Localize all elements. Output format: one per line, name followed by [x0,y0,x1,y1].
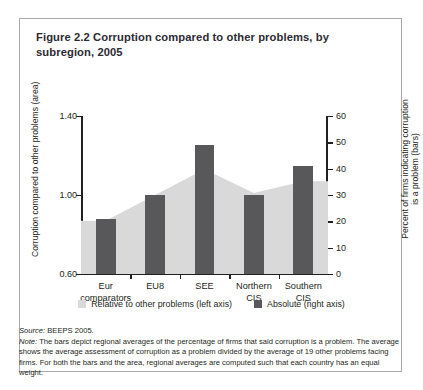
x-axis-tick [229,274,230,279]
chart-plot-area: Corruption compared to other problems (a… [20,81,403,296]
legend-item-area: Relative to other problems (left axis) [78,299,232,309]
x-axis-category-label: SEE [195,281,213,293]
source-text: BEEPS 2005. [45,326,94,335]
legend-label-area: Relative to other problems (left axis) [91,299,232,309]
chart-bar [244,195,264,274]
y-axis-right-title: Percent of firms indicating corruption i… [400,84,420,254]
x-axis-category-label: EU8 [146,281,164,293]
y-axis-left-tick-label: 1.00 [59,190,77,200]
legend-swatch-area-icon [78,300,86,308]
y-axis-right-tick [328,142,333,143]
y-axis-right-tick-label: 10 [336,243,346,253]
y-axis-right-title-line1: Percent of firms indicating corruption [400,99,410,238]
y-axis-right-tick [328,169,333,170]
chart-bar [145,195,165,274]
figure-title: Figure 2.2 Corruption compared to other … [36,30,386,60]
y-axis-right-tick-label: 20 [336,216,346,226]
source-line: Source: BEEPS 2005. [19,326,404,336]
y-axis-right-tick-label: 0 [336,269,341,279]
y-axis-left-tick-label: 1.40 [59,111,77,121]
y-axis-right-tick-label: 50 [336,137,346,147]
chart-bar [195,145,215,274]
x-axis-category-label-line1: Eur [99,281,113,291]
legend-label-bar: Absolute (right axis) [267,299,345,309]
note-line: Note: The bars depict regional averages … [19,337,404,378]
x-axis-category-label-line1: Northern [236,281,272,291]
y-axis-right-tick [328,248,333,249]
chart-axes: 0.601.001.400102030405060EurcomparatorsE… [81,116,328,274]
x-axis-category-label-line1: EU8 [146,281,164,291]
y-axis-right-tick-label: 40 [336,164,346,174]
chart-bar [293,166,313,274]
chart-legend: Relative to other problems (left axis) A… [20,299,403,309]
y-axis-right-tick [328,195,333,196]
x-axis-tick [180,274,181,279]
legend-swatch-bar-icon [254,300,262,308]
figure-card: Figure 2.2 Corruption compared to other … [19,18,402,372]
x-axis-tick [130,274,131,279]
legend-item-bar: Absolute (right axis) [254,299,345,309]
chart-bar [96,219,116,274]
y-axis-right-tick [328,274,333,275]
x-axis-category-label-line1: SEE [195,281,213,291]
y-axis-right-tick [328,116,333,117]
source-label: Source: [19,326,45,335]
y-axis-right-tick-label: 30 [336,190,346,200]
x-axis-category-label-line1: Southern [285,281,322,291]
y-axis-right-tick [328,221,333,222]
y-axis-left-title: Corruption compared to other problems (a… [30,87,40,257]
x-axis-tick [279,274,280,279]
figure-notes: Source: BEEPS 2005. Note: The bars depic… [19,326,404,379]
y-axis-right-title-line2: is a problem (bars) [410,133,420,205]
y-axis-left-tick-label: 0.60 [59,269,77,279]
y-axis-right-tick-label: 60 [336,111,346,121]
note-label: Note: [19,337,37,346]
note-text: The bars depict regional averages of the… [19,337,399,377]
